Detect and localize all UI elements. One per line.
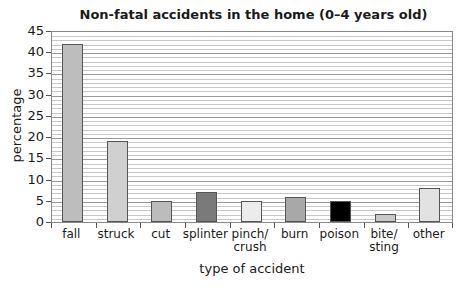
bar-burn <box>285 197 306 222</box>
bar-pinch-crush <box>241 201 262 222</box>
gridline <box>52 121 452 122</box>
gridline <box>52 45 452 46</box>
chart-title: Non-fatal accidents in the home (0–4 yea… <box>0 7 467 22</box>
gridline <box>52 125 452 126</box>
gridline <box>52 130 452 131</box>
x-tick-mark <box>51 223 52 228</box>
x-tick-mark <box>230 223 231 228</box>
gridline <box>52 100 452 101</box>
gridline <box>52 36 452 37</box>
gridline <box>52 91 452 92</box>
gridline <box>52 104 452 105</box>
gridline <box>52 70 452 71</box>
gridline <box>52 49 452 50</box>
gridline <box>52 138 452 139</box>
x-tick-mark <box>364 223 365 228</box>
x-tick-mark <box>452 223 453 228</box>
y-tick-label: 30 <box>0 88 44 102</box>
x-tick-mark <box>408 223 409 228</box>
x-tick-mark <box>274 223 275 228</box>
gridline <box>52 134 452 135</box>
x-tick-mark <box>140 223 141 228</box>
gridline <box>52 117 452 118</box>
y-tick-label: 35 <box>0 66 44 80</box>
gridline <box>52 113 452 114</box>
y-tick-label: 40 <box>0 45 44 59</box>
gridline <box>52 40 452 41</box>
y-tick-label: 5 <box>0 194 44 208</box>
y-tick-label: 45 <box>0 24 44 38</box>
gridline <box>52 83 452 84</box>
y-tick-label: 10 <box>0 173 44 187</box>
bar-cut <box>151 201 172 222</box>
bar-struck <box>107 141 128 222</box>
gridline <box>52 87 452 88</box>
y-tick-label: 25 <box>0 109 44 123</box>
bar-other <box>419 188 440 222</box>
gridline <box>52 96 452 97</box>
gridline <box>52 108 452 109</box>
gridline <box>52 57 452 58</box>
bar-bite-sting <box>375 214 396 222</box>
y-tick-label: 15 <box>0 151 44 165</box>
gridline <box>52 53 452 54</box>
x-tick-mark <box>319 223 320 228</box>
y-tick-label: 0 <box>0 215 44 229</box>
y-tick-label: 20 <box>0 130 44 144</box>
bar-splinter <box>196 192 217 222</box>
gridline <box>52 62 452 63</box>
x-tick-mark <box>185 223 186 228</box>
gridline <box>52 79 452 80</box>
gridline <box>52 66 452 67</box>
x-axis-label: type of accident <box>51 261 453 276</box>
bar-fall <box>62 44 83 222</box>
plot-area <box>51 31 453 223</box>
x-tick-mark <box>96 223 97 228</box>
gridline <box>52 74 452 75</box>
x-tick-label: other <box>399 228 459 241</box>
bar-poison <box>330 201 351 222</box>
